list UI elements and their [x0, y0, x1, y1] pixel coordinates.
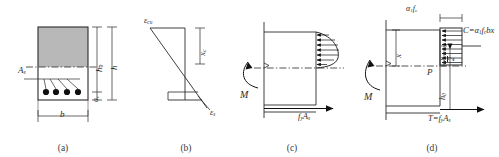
C-arrowhead-up	[448, 44, 453, 50]
moment-arrowhead	[368, 60, 375, 68]
steel-leader-4	[67, 79, 78, 89]
panel-a-graphics	[0, 0, 128, 157]
rebar-2	[53, 89, 59, 95]
rebar-1	[43, 89, 49, 95]
steel-leader-3	[58, 79, 67, 89]
width-label: b	[60, 110, 65, 119]
compression-force-label: C=α1fcbx	[463, 26, 494, 35]
moment-label: M	[240, 90, 248, 100]
point-p-label: P	[427, 68, 433, 77]
total-depth-label: h	[110, 66, 119, 71]
steel-strain-leader	[198, 96, 210, 110]
panel-b: εcu xc εs (b)	[128, 0, 228, 157]
block-depth-label: x	[394, 54, 403, 58]
half-block-depth-label: x2	[438, 56, 456, 62]
panel-d: α1fc C=α1fcbx x M P x2 h0 T=fyAs (d)	[356, 0, 499, 157]
neutral-axis-depth-label: xc	[198, 50, 208, 56]
caption-d: (d)	[412, 143, 452, 153]
figure-root: As h0 h as b (a) εcu xc εs (b)	[0, 0, 499, 157]
steel-leader-1	[44, 79, 46, 89]
caption-b: (b)	[166, 143, 206, 153]
panel-d-graphics	[356, 0, 499, 157]
caption-a: (a)	[43, 143, 83, 153]
axis-break-symbol	[386, 61, 391, 66]
concrete-stress-label: α1fc	[406, 5, 417, 14]
rebar-4	[75, 89, 81, 95]
panel-c-graphics	[228, 0, 356, 157]
steel-strain-label: εs	[210, 108, 215, 117]
steel-leader-2	[50, 79, 56, 89]
panel-c: M fyAs (c)	[228, 0, 356, 157]
concrete-strain-label: εcu	[144, 16, 152, 25]
compression-zone-fill	[38, 27, 88, 67]
axis-break-symbol	[264, 63, 269, 68]
tension-force-label: T=fyAs	[428, 114, 450, 123]
panel-b-graphics	[128, 0, 228, 157]
moment-label: M	[364, 92, 372, 102]
effective-depth-label: h0	[95, 65, 105, 72]
caption-c: (c)	[272, 143, 312, 153]
steel-area-label: As	[18, 66, 26, 76]
tension-force-label: fyAs	[298, 112, 310, 121]
cover-label: as	[92, 96, 100, 102]
lever-arm-label: h0	[438, 93, 447, 100]
rebar-3	[64, 89, 70, 95]
panel-a: As h0 h as b (a)	[0, 0, 128, 157]
